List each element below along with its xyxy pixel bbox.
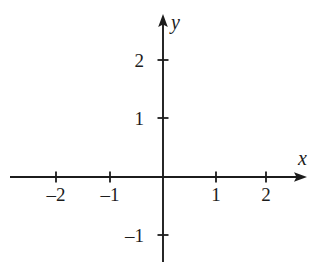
y-tick-label-neg1: –1 [114,226,144,245]
y-axis-label: y [171,12,180,32]
x-tick-label-pos2: 2 [256,185,276,204]
x-tick-label-neg2: –2 [41,185,71,204]
y-tick-label-pos1: 1 [122,109,144,128]
coordinate-plane-figure: x y –2 –1 1 2 2 1 –1 [0,0,322,280]
x-tick-label-pos1: 1 [206,185,226,204]
y-tick-label-pos2: 2 [122,51,144,70]
axes-drawing [0,0,322,280]
x-axis-label: x [298,148,307,168]
x-tick-label-neg1: –1 [95,185,125,204]
